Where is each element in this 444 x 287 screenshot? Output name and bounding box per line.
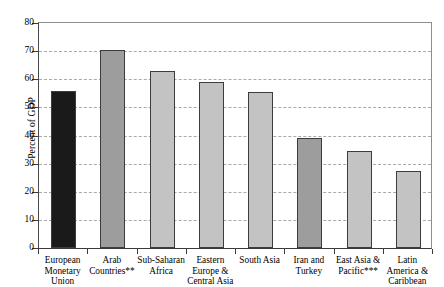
y-axis-tick-label: 0 (0, 243, 34, 253)
bar (51, 91, 76, 249)
x-axis-tick (235, 249, 236, 254)
y-axis-tick-label: 20 (0, 187, 34, 197)
x-axis-labels: European Monetary UnionArab Countries**S… (38, 255, 432, 285)
x-axis-tick (432, 249, 433, 254)
plot-area (38, 22, 432, 249)
x-axis-tick (87, 249, 88, 254)
y-axis-tick-label: 80 (0, 18, 34, 28)
x-axis-tick (38, 249, 39, 254)
x-axis-tick (284, 249, 285, 254)
bar (199, 82, 224, 248)
bar (347, 151, 372, 248)
x-axis-tick (334, 249, 335, 254)
y-axis-tick-label: 60 (0, 74, 34, 84)
bar (100, 50, 125, 248)
x-axis-tick (186, 249, 187, 254)
bar (150, 71, 175, 248)
y-axis-title: Percent of GDP (27, 48, 37, 208)
y-axis-tick-label: 40 (0, 131, 34, 141)
y-axis-tick-label: 10 (0, 215, 34, 225)
y-axis-tick-label: 70 (0, 46, 34, 56)
y-axis-tick-label: 50 (0, 102, 34, 112)
bar (297, 138, 322, 248)
x-axis-category-label: Latin America & Caribbean (377, 255, 438, 287)
x-axis-tick (383, 249, 384, 254)
x-axis-tick (137, 249, 138, 254)
bar (248, 92, 273, 248)
bar (396, 171, 421, 248)
y-axis-tick-label: 30 (0, 159, 34, 169)
bars-layer (39, 23, 431, 248)
